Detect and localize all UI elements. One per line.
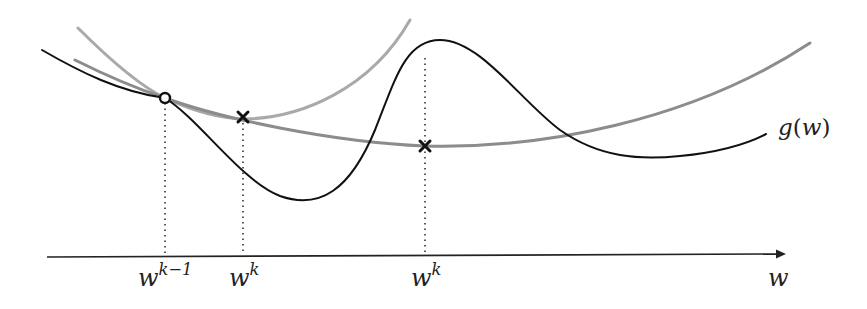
- function-name: g: [778, 114, 793, 140]
- open-circle-marker: [160, 93, 170, 103]
- tick-superscript: k−1: [159, 260, 193, 279]
- surrogate-curve-narrow: [78, 20, 410, 119]
- tick-superscript: k: [432, 260, 442, 279]
- tick-label-wk-1: wk: [229, 262, 259, 292]
- tick-label-wk-2: wk: [411, 262, 441, 292]
- function-label: g(w): [778, 114, 830, 140]
- function-arg: w: [802, 114, 822, 140]
- tick-label-wkm1: wk−1: [138, 262, 192, 292]
- axis-arrow-icon: [776, 250, 786, 259]
- paren-close: ): [821, 114, 830, 140]
- tick-base: w: [229, 264, 250, 292]
- surrogate-curve-wide: [75, 43, 810, 146]
- objective-curve: [42, 40, 766, 200]
- paren-open: (: [793, 114, 802, 140]
- tick-base: w: [138, 264, 159, 292]
- x-axis: [47, 254, 778, 257]
- tick-superscript: k: [250, 260, 260, 279]
- mm-diagram: g(w) wk−1 wk wk w: [0, 0, 867, 309]
- axis-label: w: [768, 264, 789, 292]
- tick-base: w: [411, 264, 432, 292]
